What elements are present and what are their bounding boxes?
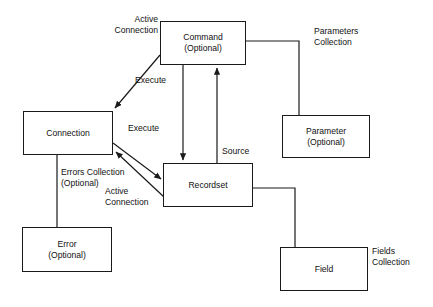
edge-label-execute-command: Execute xyxy=(135,75,181,86)
node-error[interactable]: Error (Optional) xyxy=(22,227,112,272)
node-field[interactable]: Field xyxy=(280,247,368,291)
connector-recordset-to-field xyxy=(253,188,295,247)
node-recordset[interactable]: Recordset xyxy=(163,163,253,207)
edge-label-source: Source xyxy=(222,146,264,157)
connector-command-to-parameter xyxy=(246,41,299,115)
node-error-sublabel: (Optional) xyxy=(48,250,86,261)
ado-object-model-diagram: Command (Optional) Connection Recordset … xyxy=(0,0,433,307)
node-command-label: Command xyxy=(183,32,223,43)
edge-label-fields-collection: Fields Collection xyxy=(372,246,430,268)
edge-label-active-connection-command: Active Connection xyxy=(96,14,158,36)
edge-label-active-connection-recordset: Active Connection xyxy=(105,186,167,208)
node-connection[interactable]: Connection xyxy=(23,111,113,155)
node-error-label: Error xyxy=(57,239,76,250)
node-field-label: Field xyxy=(315,264,334,275)
node-command-sublabel: (Optional) xyxy=(184,43,222,54)
node-recordset-label: Recordset xyxy=(188,180,227,191)
node-connection-label: Connection xyxy=(46,128,89,139)
node-command[interactable]: Command (Optional) xyxy=(160,21,246,65)
node-parameter-sublabel: (Optional) xyxy=(307,137,345,148)
edge-label-parameters-collection: Parameters Collection xyxy=(314,26,380,48)
edge-label-execute-connection: Execute xyxy=(128,123,174,134)
node-parameter-label: Parameter xyxy=(306,126,346,137)
node-parameter[interactable]: Parameter (Optional) xyxy=(282,115,370,158)
